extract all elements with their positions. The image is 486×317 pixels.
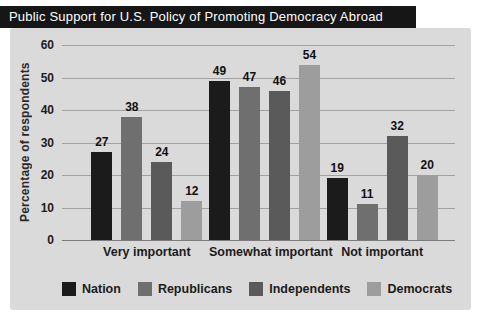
legend-item-nation: Nation: [62, 282, 121, 296]
category-label: Not important: [327, 245, 438, 259]
legend-label: Nation: [82, 282, 121, 296]
bar-democrats-2: 54: [299, 65, 320, 241]
legend: NationRepublicansIndependentsDemocrats: [62, 282, 452, 296]
legend-swatch-icon: [367, 282, 381, 296]
bar-value-label: 24: [155, 145, 168, 159]
bar-republicans-1: 38: [121, 117, 142, 241]
bar-value-label: 12: [185, 184, 198, 198]
y-tick-label-30: 30: [28, 135, 54, 151]
legend-item-democrats: Democrats: [367, 282, 452, 296]
bar-independents-3: 32: [387, 136, 408, 240]
bar-republicans-2: 47: [239, 87, 260, 240]
legend-swatch-icon: [138, 282, 152, 296]
bar-nation-1: 27: [91, 152, 112, 240]
bar-value-label: 20: [420, 158, 433, 172]
legend-item-republicans: Republicans: [138, 282, 232, 296]
bar-value-label: 47: [243, 70, 256, 84]
y-tick-label-10: 10: [28, 200, 54, 216]
bar-republicans-3: 11: [357, 204, 378, 240]
category-label: Very important: [91, 245, 202, 259]
bar-nation-3: 19: [327, 178, 348, 240]
legend-swatch-icon: [249, 282, 263, 296]
screenshot-root: Public Support for U.S. Policy of Promot…: [0, 0, 486, 317]
y-tick-label-0: 0: [28, 232, 54, 248]
bar-group: 19113220Not important: [327, 45, 438, 240]
y-tick-label-20: 20: [28, 167, 54, 183]
chart-panel: Percentage of respondents 0102030405060 …: [10, 28, 471, 310]
legend-item-independents: Independents: [249, 282, 350, 296]
chart-title-bar: Public Support for U.S. Policy of Promot…: [0, 6, 416, 28]
bar-value-label: 27: [95, 135, 108, 149]
legend-label: Democrats: [387, 282, 452, 296]
chart-title: Public Support for U.S. Policy of Promot…: [9, 9, 383, 24]
y-tick-label-40: 40: [28, 102, 54, 118]
bar-value-label: 54: [303, 48, 316, 62]
bar-group: 49474654Somewhat important: [209, 45, 320, 240]
bar-value-label: 49: [213, 64, 226, 78]
y-tick-label-60: 60: [28, 37, 54, 53]
bar-value-label: 32: [390, 119, 403, 133]
bar-groups: 27382412Very important49474654Somewhat i…: [62, 45, 455, 240]
y-tick-label-50: 50: [28, 70, 54, 86]
category-label: Somewhat important: [209, 245, 320, 259]
bar-value-label: 38: [125, 100, 138, 114]
legend-swatch-icon: [62, 282, 76, 296]
bar-independents-1: 24: [151, 162, 172, 240]
bar-democrats-1: 12: [181, 201, 202, 240]
bar-democrats-3: 20: [417, 175, 438, 240]
legend-label: Independents: [269, 282, 350, 296]
legend-label: Republicans: [158, 282, 232, 296]
bar-value-label: 46: [273, 74, 286, 88]
bar-nation-2: 49: [209, 81, 230, 240]
bar-group: 27382412Very important: [91, 45, 202, 240]
plot-area: 0102030405060 27382412Very important4947…: [62, 45, 455, 241]
bar-value-label: 11: [361, 187, 374, 201]
bar-value-label: 19: [330, 161, 343, 175]
bar-independents-2: 46: [269, 91, 290, 241]
